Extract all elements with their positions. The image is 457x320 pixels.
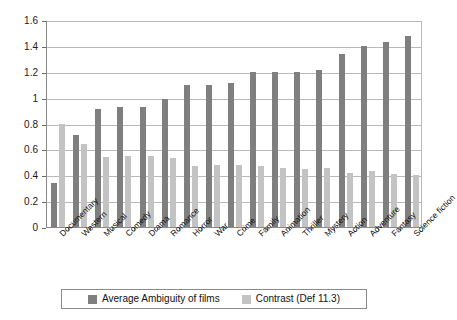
legend-label: Average Ambiguity of films	[102, 294, 220, 304]
x-axis-category-label: Science fiction	[412, 193, 457, 238]
legend-item-contrast: Contrast (Def 11.3)	[242, 294, 340, 304]
legend-item-average-ambiguity: Average Ambiguity of films	[88, 294, 220, 304]
x-axis-category-label: War	[213, 221, 230, 238]
x-axis-category-label: Mystery	[323, 211, 350, 238]
x-axis-category-label: Crime	[235, 216, 257, 238]
legend-label: Contrast (Def 11.3)	[256, 294, 340, 304]
x-axis-category-label: Family	[257, 214, 281, 238]
legend-swatch-icon-light	[242, 295, 251, 304]
chart-legend: Average Ambiguity of films Contrast (Def…	[61, 289, 367, 309]
legend-swatch-icon-dark	[88, 295, 97, 304]
